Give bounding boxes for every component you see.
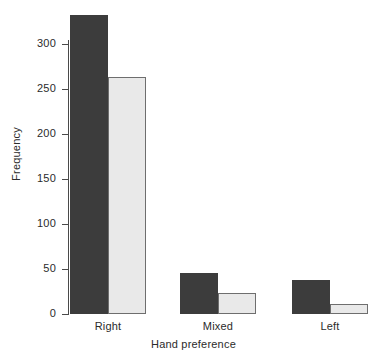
y-axis-tick-label: 150 [26, 172, 56, 184]
y-axis-title: Frequency [10, 114, 22, 194]
y-axis-tick [62, 314, 68, 315]
y-axis-tick [62, 89, 68, 90]
x-axis-title: Hand preference [0, 338, 387, 350]
bar [292, 280, 330, 314]
bar [180, 273, 218, 314]
x-axis-category-label: Left [290, 320, 370, 332]
y-axis-tick-label: 200 [26, 127, 56, 139]
y-axis-tick [62, 179, 68, 180]
y-axis-tick [62, 224, 68, 225]
bar [330, 304, 368, 314]
bar [218, 293, 256, 314]
y-axis-tick-label: 250 [26, 82, 56, 94]
y-axis-tick-label: 50 [26, 262, 56, 274]
bar [70, 15, 108, 314]
y-axis-tick [62, 44, 68, 45]
y-axis-tick-label: 0 [26, 307, 56, 319]
x-axis-category-label: Right [68, 320, 148, 332]
y-axis-tick-label: 100 [26, 217, 56, 229]
y-axis-tick [62, 269, 68, 270]
y-axis-line [68, 40, 69, 315]
x-axis-category-label: Mixed [178, 320, 258, 332]
bar [108, 77, 146, 314]
y-axis-tick [62, 134, 68, 135]
y-axis-tick-label: 300 [26, 37, 56, 49]
bar-chart: 300250200150100500 Frequency RightMixedL… [0, 0, 387, 361]
